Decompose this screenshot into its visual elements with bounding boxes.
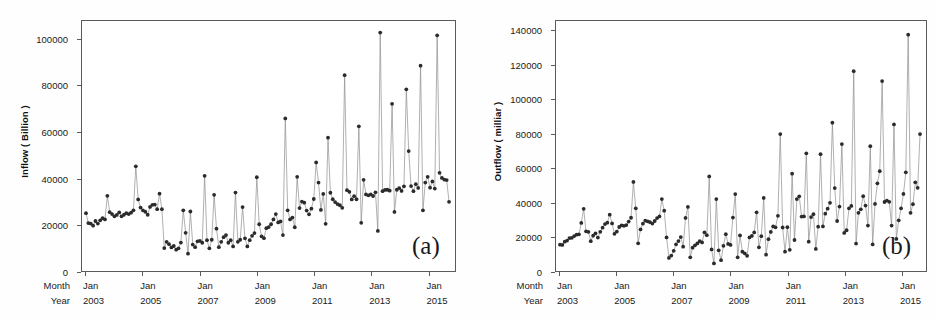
data-point-marker: [319, 208, 323, 212]
data-point-marker: [816, 225, 820, 229]
data-point-marker: [757, 245, 761, 249]
data-point-marker: [132, 208, 136, 212]
data-point-marker: [224, 233, 228, 237]
data-point-marker: [783, 250, 787, 254]
data-point-marker: [158, 192, 162, 196]
data-point-marker: [876, 181, 880, 185]
data-point-marker: [871, 243, 875, 247]
data-point-marker: [248, 238, 252, 242]
data-point-marker: [707, 175, 711, 179]
data-point-marker: [274, 212, 278, 216]
data-point-marker: [328, 191, 332, 195]
data-point-marker: [404, 87, 408, 91]
data-point-marker: [658, 214, 662, 218]
data-point-marker: [245, 245, 249, 249]
data-point-marker: [793, 238, 797, 242]
data-point-marker: [632, 180, 636, 184]
plot-area-b: (b): [555, 20, 927, 272]
data-point-marker: [705, 233, 709, 237]
data-point-marker: [350, 198, 354, 202]
x-axis-tick-mark: [314, 272, 315, 276]
chart-panel-a: Inflow ( Billion ) 020000400006000080000…: [0, 0, 470, 322]
data-point-marker: [416, 186, 420, 190]
x-axis-tick-mark: [845, 272, 846, 276]
data-point-marker: [845, 228, 849, 232]
data-point-marker: [307, 212, 311, 216]
data-point-marker: [84, 211, 88, 215]
data-point-marker: [890, 224, 894, 228]
data-point-marker: [428, 186, 432, 190]
data-point-marker: [724, 232, 728, 236]
data-point-marker: [257, 222, 261, 226]
x-axis-tick-mark: [559, 272, 560, 276]
series-line: [560, 35, 920, 264]
data-point-marker: [819, 152, 823, 156]
data-point-marker: [393, 210, 397, 214]
data-point-marker: [447, 200, 451, 204]
series-plot-a: [82, 21, 455, 271]
data-point-marker: [605, 221, 609, 225]
data-point-marker: [781, 226, 785, 230]
data-point-marker: [608, 213, 612, 217]
data-point-marker: [234, 191, 238, 195]
data-point-marker: [310, 207, 314, 211]
data-point-marker: [852, 69, 856, 73]
x-axis-year-label: 2007: [671, 295, 692, 306]
data-point-marker: [134, 164, 138, 168]
data-point-marker: [262, 236, 266, 240]
data-point-marker: [426, 175, 430, 179]
x-axis-row-head-month-b: Month: [485, 280, 543, 291]
data-point-marker: [203, 174, 207, 178]
data-point-marker: [414, 182, 418, 186]
x-axis-year-label: 2013: [843, 295, 864, 306]
data-point-marker: [665, 236, 669, 240]
data-point-marker: [864, 204, 868, 208]
data-point-marker: [868, 144, 872, 148]
data-point-marker: [653, 219, 657, 223]
data-point-marker: [738, 234, 742, 238]
data-point-marker: [359, 221, 363, 225]
data-point-marker: [913, 180, 917, 184]
data-point-marker: [700, 241, 704, 245]
data-point-marker: [778, 132, 782, 136]
data-point-marker: [400, 189, 404, 193]
data-point-marker: [215, 227, 219, 231]
x-axis-month-label: Jan: [312, 280, 327, 291]
data-point-marker: [291, 216, 295, 220]
data-point-marker: [764, 253, 768, 257]
data-point-marker: [712, 262, 716, 266]
y-axis-tick-label: 60000: [0, 127, 68, 138]
data-point-marker: [767, 237, 771, 241]
data-point-marker: [200, 241, 204, 245]
data-point-marker: [205, 238, 209, 242]
data-point-marker: [136, 198, 140, 202]
x-axis-year-label: 2003: [83, 295, 104, 306]
x-axis-month-label: Jan: [83, 280, 98, 291]
data-point-marker: [729, 243, 733, 247]
data-point-marker: [241, 205, 245, 209]
y-axis-tick-label: 80000: [467, 128, 542, 139]
y-axis-tick-mark: [551, 272, 555, 273]
data-point-marker: [873, 202, 877, 206]
data-point-marker: [849, 204, 853, 208]
data-point-marker: [854, 242, 858, 246]
data-point-marker: [785, 225, 789, 229]
data-point-marker: [807, 240, 811, 244]
x-axis-year-label: 2007: [198, 295, 219, 306]
x-axis-tick-mark: [902, 272, 903, 276]
data-point-marker: [423, 181, 427, 185]
data-point-marker: [390, 102, 394, 106]
data-point-marker: [788, 248, 792, 252]
data-point-marker: [293, 225, 297, 229]
data-point-marker: [660, 197, 664, 201]
data-point-marker: [438, 171, 442, 175]
x-axis-year-label: 2015: [427, 295, 448, 306]
x-axis-tick-mark: [616, 272, 617, 276]
x-axis-year-label: 2003: [557, 295, 578, 306]
data-point-marker: [636, 241, 640, 245]
data-point-marker: [298, 206, 302, 210]
data-point-marker: [790, 172, 794, 176]
data-point-marker: [629, 216, 633, 220]
data-point-marker: [902, 192, 906, 196]
data-point-marker: [804, 151, 808, 155]
